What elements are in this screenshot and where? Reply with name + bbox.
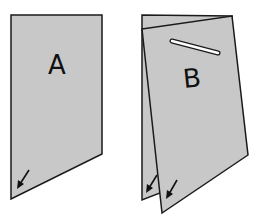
panel-a-label: A <box>48 52 66 78</box>
panel-b <box>142 15 248 213</box>
panel-b-label: B <box>182 64 202 92</box>
diagram-canvas <box>0 0 253 222</box>
panel-a <box>11 15 102 199</box>
sheet-a <box>11 15 102 199</box>
